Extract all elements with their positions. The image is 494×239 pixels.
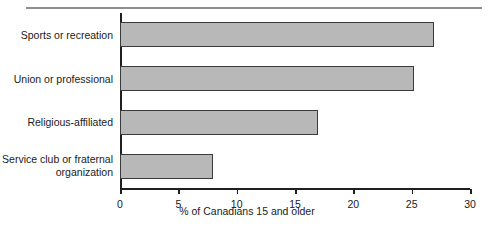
plot-area: 051015202530 [120,13,470,188]
x-tick-15 [295,189,297,194]
x-tick-25 [412,189,414,194]
x-tick-0 [120,189,122,194]
category-label: Service club or fraternal organization [0,153,113,179]
x-tick-30 [470,189,472,194]
chart-container: Sports or recreationUnion or professiona… [0,0,494,239]
top-divider-rule [26,7,482,9]
x-axis-title: % of Canadians 15 and older [0,205,494,217]
bar [120,154,213,179]
bar [120,22,434,47]
category-label: Union or professional [0,72,113,85]
category-label: Religious-affiliated [0,116,113,129]
x-tick-5 [178,189,180,194]
bar [120,110,318,135]
bar [120,66,414,91]
x-tick-20 [353,189,355,194]
category-label: Sports or recreation [0,28,113,41]
x-tick-10 [237,189,239,194]
